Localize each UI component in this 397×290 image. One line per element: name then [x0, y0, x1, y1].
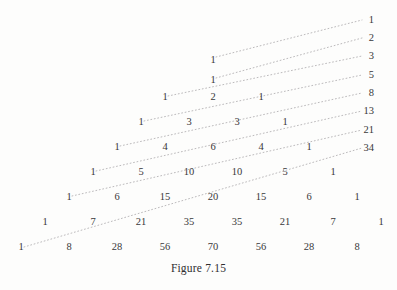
pascal-cell: 1: [162, 92, 167, 103]
pascal-cell: 5: [138, 167, 143, 178]
pascal-cell: 5: [282, 167, 287, 178]
pascal-cell: 35: [184, 217, 195, 228]
pascal-cell: 28: [112, 242, 123, 253]
fibonacci-sum-label: 1: [369, 15, 374, 26]
fibonacci-sum-label: 2: [369, 33, 374, 44]
pascal-cell: 4: [258, 142, 263, 153]
pascal-cell: 6: [210, 142, 215, 153]
pascal-cell: 1: [354, 192, 359, 203]
pascal-cell: 1: [66, 192, 71, 203]
pascal-cell: 15: [160, 192, 171, 203]
pascal-cell: 1: [138, 117, 143, 128]
pascal-numbers-layer: 1112113311464115101051161520156117213535…: [0, 0, 397, 290]
pascal-cell: 6: [306, 192, 311, 203]
pascal-cell: 20: [208, 192, 219, 203]
pascal-cell: 35: [232, 217, 243, 228]
pascal-cell: 1: [210, 75, 215, 86]
pascal-cell: 3: [234, 117, 239, 128]
pascal-cell: 7: [90, 217, 95, 228]
pascal-cell: 1: [18, 242, 23, 253]
pascal-cell: 28: [304, 242, 315, 253]
pascal-cell: 56: [256, 242, 267, 253]
pascal-cell: 10: [184, 167, 195, 178]
pascal-cell: 1: [306, 142, 311, 153]
pascal-cell: 70: [208, 242, 219, 253]
fibonacci-sum-label: 8: [369, 88, 374, 99]
pascal-cell: 4: [162, 142, 167, 153]
fibonacci-sum-label: 13: [364, 106, 375, 117]
pascal-cell: 1: [114, 142, 119, 153]
fibonacci-sum-label: 5: [369, 70, 374, 81]
pascal-cell: 1: [210, 55, 215, 66]
pascal-cell: 21: [136, 217, 147, 228]
pascal-cell: 1: [258, 92, 263, 103]
pascal-cell: 8: [66, 242, 71, 253]
pascal-cell: 1: [378, 217, 383, 228]
pascal-fibonacci-figure: 1112113311464115101051161520156117213535…: [0, 0, 397, 290]
pascal-cell: 1: [90, 167, 95, 178]
figure-caption: Figure 7.15: [0, 262, 397, 274]
pascal-cell: 2: [210, 92, 215, 103]
fibonacci-sum-label: 34: [364, 143, 375, 154]
pascal-cell: 1: [42, 217, 47, 228]
pascal-cell: 56: [160, 242, 171, 253]
pascal-cell: 10: [232, 167, 243, 178]
pascal-cell: 3: [186, 117, 191, 128]
pascal-cell: 7: [330, 217, 335, 228]
pascal-cell: 1: [330, 167, 335, 178]
fibonacci-sum-label: 21: [364, 125, 375, 136]
fibonacci-sum-label: 3: [369, 51, 374, 62]
pascal-cell: 1: [282, 117, 287, 128]
pascal-cell: 21: [280, 217, 291, 228]
pascal-cell: 15: [256, 192, 267, 203]
pascal-cell: 8: [354, 242, 359, 253]
pascal-cell: 6: [114, 192, 119, 203]
